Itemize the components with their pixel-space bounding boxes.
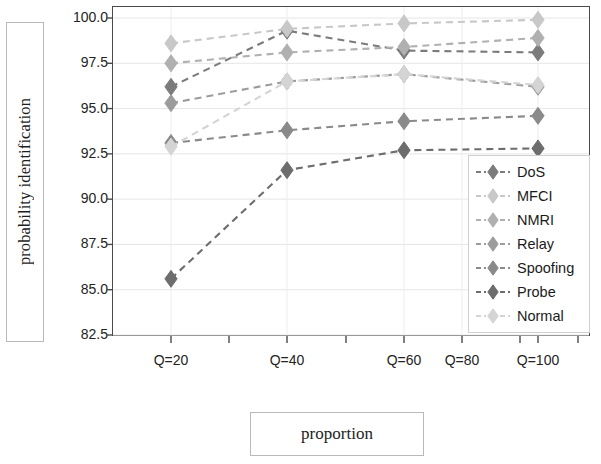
data-point-marker bbox=[165, 95, 177, 112]
legend-item-normal[interactable]: Normal bbox=[469, 304, 589, 328]
legend-item-nmri[interactable]: NMRI bbox=[469, 208, 589, 232]
legend-item-relay[interactable]: Relay bbox=[469, 232, 589, 256]
legend-item-label: Probe bbox=[517, 284, 556, 300]
series-line bbox=[171, 31, 538, 87]
x-tick-label: Q=20 bbox=[136, 352, 206, 368]
series-relay bbox=[165, 66, 544, 112]
legend-item-label: Normal bbox=[517, 308, 564, 324]
legend-item-label: DoS bbox=[517, 164, 545, 180]
data-point-marker bbox=[165, 78, 177, 95]
series-mfci bbox=[165, 11, 544, 52]
series-line bbox=[171, 74, 538, 103]
legend-item-probe[interactable]: Probe bbox=[469, 280, 589, 304]
legend-marker-icon bbox=[475, 307, 511, 325]
legend-item-label: Spoofing bbox=[517, 260, 574, 276]
legend-item-mfci[interactable]: MFCI bbox=[469, 184, 589, 208]
x-axis-tick-labels: Q=20Q=40Q=60Q=80Q=100 bbox=[0, 352, 601, 376]
x-tick-label: Q=40 bbox=[252, 352, 322, 368]
data-point-marker bbox=[398, 113, 410, 130]
x-axis-label-box: proportion bbox=[250, 412, 424, 456]
x-tick-label: Q=80 bbox=[427, 352, 497, 368]
series-line bbox=[171, 74, 538, 146]
series-spoofing bbox=[165, 107, 544, 151]
data-point-marker bbox=[398, 15, 410, 32]
legend-item-label: MFCI bbox=[517, 188, 552, 204]
legend: DoSMFCINMRIRelaySpoofingProbeNormal bbox=[468, 155, 590, 333]
data-point-marker bbox=[398, 66, 410, 83]
data-point-marker bbox=[165, 270, 177, 287]
data-point-marker bbox=[281, 162, 293, 179]
legend-marker-icon bbox=[475, 187, 511, 205]
legend-marker-icon bbox=[475, 259, 511, 277]
data-point-marker bbox=[532, 11, 544, 28]
data-point-marker bbox=[281, 122, 293, 139]
legend-marker-icon bbox=[475, 283, 511, 301]
legend-item-label: NMRI bbox=[517, 212, 554, 228]
series-normal bbox=[165, 66, 544, 155]
legend-marker-icon bbox=[475, 211, 511, 229]
x-tick-label: Q=100 bbox=[503, 352, 573, 368]
series-line bbox=[171, 116, 538, 143]
legend-item-label: Relay bbox=[517, 236, 554, 252]
legend-item-spoofing[interactable]: Spoofing bbox=[469, 256, 589, 280]
legend-marker-icon bbox=[475, 163, 511, 181]
data-point-marker bbox=[281, 73, 293, 90]
data-point-marker bbox=[165, 55, 177, 72]
legend-item-dos[interactable]: DoS bbox=[469, 160, 589, 184]
data-point-marker bbox=[398, 142, 410, 159]
legend-marker-icon bbox=[475, 235, 511, 253]
series-line bbox=[171, 20, 538, 44]
series-nmri bbox=[165, 29, 544, 71]
data-point-marker bbox=[281, 20, 293, 37]
chart-root: probability identification 100.097.595.0… bbox=[0, 0, 601, 464]
x-axis-label: proportion bbox=[301, 424, 373, 444]
data-point-marker bbox=[532, 107, 544, 124]
data-point-marker bbox=[281, 44, 293, 61]
data-point-marker bbox=[532, 29, 544, 46]
data-point-marker bbox=[532, 77, 544, 94]
data-point-marker bbox=[165, 35, 177, 52]
